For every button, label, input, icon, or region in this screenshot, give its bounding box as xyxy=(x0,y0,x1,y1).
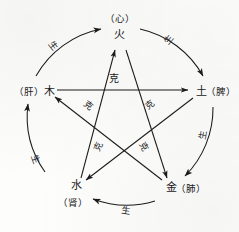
node-wood-organ: （肝） xyxy=(14,86,44,97)
overcoming-cycle-lines xyxy=(55,50,193,180)
node-earth-organ: （脾） xyxy=(206,86,236,97)
node-wood[interactable]: （肝） 木 xyxy=(14,85,55,98)
label-ke-metal-wood: 克 xyxy=(82,99,95,112)
arc-metal-to-water xyxy=(93,199,155,205)
label-ke-water-fire: 克 xyxy=(137,140,150,153)
node-wood-element: 木 xyxy=(44,85,55,98)
generating-cycle-arcs xyxy=(27,29,213,205)
line-metal-to-wood xyxy=(55,97,162,180)
line-fire-to-metal xyxy=(126,50,167,178)
arc-fire-to-earth xyxy=(140,29,203,76)
node-metal[interactable]: 金 （肺） xyxy=(166,180,206,194)
line-earth-to-water xyxy=(86,98,193,180)
label-ke-wood-earth: 克 xyxy=(109,73,119,84)
label-sheng-earth-metal: 生 xyxy=(196,130,208,141)
label-sheng-water-wood: 生 xyxy=(30,153,43,165)
node-fire-organ: （心） xyxy=(105,13,135,24)
diagram-canvas: （心） 火 土 （脾） 金 （肺） 水 （肾） （肝） 木 生 生 生 生 生 xyxy=(0,0,239,232)
node-metal-organ: （肺） xyxy=(176,183,206,194)
label-ke-fire-metal: 克 xyxy=(92,140,105,152)
label-sheng-wood-fire: 生 xyxy=(47,39,61,53)
node-water[interactable]: 水 （肾） xyxy=(58,179,88,208)
node-water-organ: （肾） xyxy=(58,197,88,208)
five-elements-diagram: （心） 火 土 （脾） 金 （肺） 水 （肾） （肝） 木 生 生 生 生 生 xyxy=(0,0,239,232)
node-earth[interactable]: 土 （脾） xyxy=(196,85,236,98)
overcoming-cycle-labels: 克 克 克 克 克 xyxy=(82,73,157,153)
arc-wood-to-fire xyxy=(36,29,101,76)
node-fire-element: 火 xyxy=(114,28,125,41)
arc-earth-to-metal xyxy=(185,107,213,176)
label-sheng-fire-earth: 生 xyxy=(161,33,175,47)
node-fire[interactable]: （心） 火 xyxy=(105,13,135,41)
label-sheng-metal-water: 生 xyxy=(120,204,130,216)
node-water-element: 水 xyxy=(71,179,82,192)
line-water-to-fire xyxy=(81,50,115,178)
